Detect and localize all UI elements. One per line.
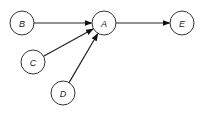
node-a: A	[92, 11, 116, 35]
edge-c-to-a-arrow	[44, 29, 94, 56]
node-label-e: E	[179, 19, 186, 29]
edge-d-to-a-arrow	[69, 34, 98, 83]
node-label-d: D	[60, 89, 67, 99]
node-label-b: B	[19, 19, 25, 29]
node-b: B	[10, 11, 34, 35]
node-label-c: C	[30, 58, 37, 68]
node-c: C	[21, 50, 45, 74]
node-d: D	[51, 81, 75, 105]
node-e: E	[170, 11, 194, 35]
node-label-a: A	[100, 19, 107, 29]
nodes: ABCDE	[10, 11, 194, 105]
graph-diagram: ABCDE	[0, 0, 203, 113]
